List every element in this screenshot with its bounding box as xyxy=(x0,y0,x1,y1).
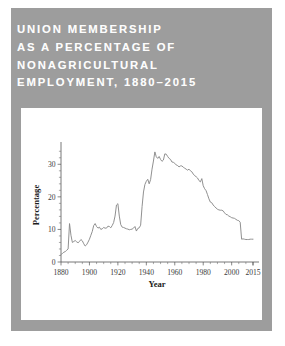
y-axis-ticks xyxy=(58,151,61,262)
x-axis-ticks xyxy=(61,262,253,265)
y-axis-title: Percentage xyxy=(31,185,41,226)
x-tick-label: 1940 xyxy=(139,268,154,277)
y-tick-label: 30 xyxy=(48,160,56,169)
x-axis-title: Year xyxy=(148,279,165,289)
x-axis-tick-labels: 18801900192019401960198020002015 xyxy=(53,268,260,277)
title-line-4: EMPLOYMENT, 1880–2015 xyxy=(17,74,257,92)
x-tick-label: 1960 xyxy=(167,268,182,277)
x-tick-label: 2000 xyxy=(224,268,239,277)
line-chart-svg: 18801900192019401960198020002015 0102030… xyxy=(21,108,262,320)
data-series-line xyxy=(61,152,253,255)
x-tick-label: 1880 xyxy=(53,268,68,277)
x-tick-label: 2015 xyxy=(245,268,260,277)
title-line-3: NONAGRICULTURAL xyxy=(17,57,257,75)
x-tick-label: 1980 xyxy=(196,268,211,277)
chart-title-block: UNION MEMBERSHIP AS A PERCENTAGE OF NONA… xyxy=(17,21,257,92)
figure-container: UNION MEMBERSHIP AS A PERCENTAGE OF NONA… xyxy=(0,0,285,346)
y-tick-label: 10 xyxy=(48,225,56,234)
y-tick-label: 0 xyxy=(52,258,56,267)
y-tick-label: 20 xyxy=(48,193,56,202)
plot-panel: 18801900192019401960198020002015 0102030… xyxy=(21,108,262,320)
axes-group xyxy=(61,142,259,262)
title-line-1: UNION MEMBERSHIP xyxy=(17,21,257,39)
x-tick-label: 1920 xyxy=(110,268,125,277)
y-axis-tick-labels: 0102030 xyxy=(48,160,56,267)
x-tick-label: 1900 xyxy=(82,268,97,277)
title-line-2: AS A PERCENTAGE OF xyxy=(17,39,257,57)
